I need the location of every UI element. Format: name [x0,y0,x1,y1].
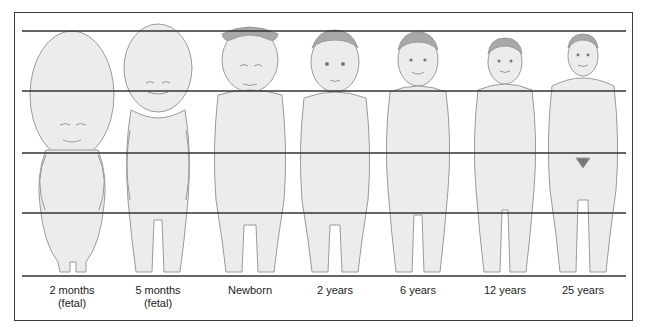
label-6-years: 6 years [373,284,463,297]
label-5-months-fetal: 5 months (fetal) [113,284,203,310]
label-line: 6 years [373,284,463,297]
label-line: 12 years [460,284,550,297]
label-2-months-fetal: 2 months (fetal) [27,284,117,310]
label-line: 5 months [113,284,203,297]
label-line: 2 years [290,284,380,297]
label-line: (fetal) [113,297,203,310]
label-12-years: 12 years [460,284,550,297]
label-newborn: Newborn [205,284,295,297]
label-line: Newborn [205,284,295,297]
label-line: (fetal) [27,297,117,310]
figure-5-months-fetal [124,24,192,272]
figure-2-years [300,30,369,272]
label-25-years: 25 years [538,284,628,297]
figure-12-years [474,38,535,272]
label-2-years: 2 years [290,284,380,297]
figure-2-months-fetal [30,31,114,272]
figure-newborn [214,27,285,272]
label-line: 2 months [27,284,117,297]
figure-6-years [386,32,449,272]
label-line: 25 years [538,284,628,297]
